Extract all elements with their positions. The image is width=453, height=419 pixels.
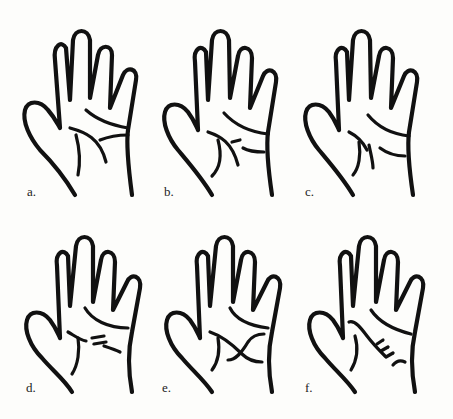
panel-d: d. xyxy=(0,210,150,415)
hand-illustration-e xyxy=(150,210,300,415)
panel-c: c. xyxy=(293,0,443,205)
panel-label: b. xyxy=(164,184,174,200)
panel-e: e. xyxy=(150,210,300,415)
hand-illustration-c xyxy=(293,0,443,205)
panel-label: f. xyxy=(305,380,313,396)
panel-label: d. xyxy=(26,380,36,396)
hand-illustration-b xyxy=(150,0,300,205)
panel-label: e. xyxy=(162,380,171,396)
hand-illustration-a xyxy=(0,0,150,205)
hand-illustration-d xyxy=(0,210,150,415)
hand-illustration-f xyxy=(293,210,443,415)
panel-f: f. xyxy=(293,210,443,415)
panel-label: c. xyxy=(305,184,314,200)
panel-label: a. xyxy=(27,184,36,200)
panel-a: a. xyxy=(0,0,150,205)
panel-b: b. xyxy=(150,0,300,205)
